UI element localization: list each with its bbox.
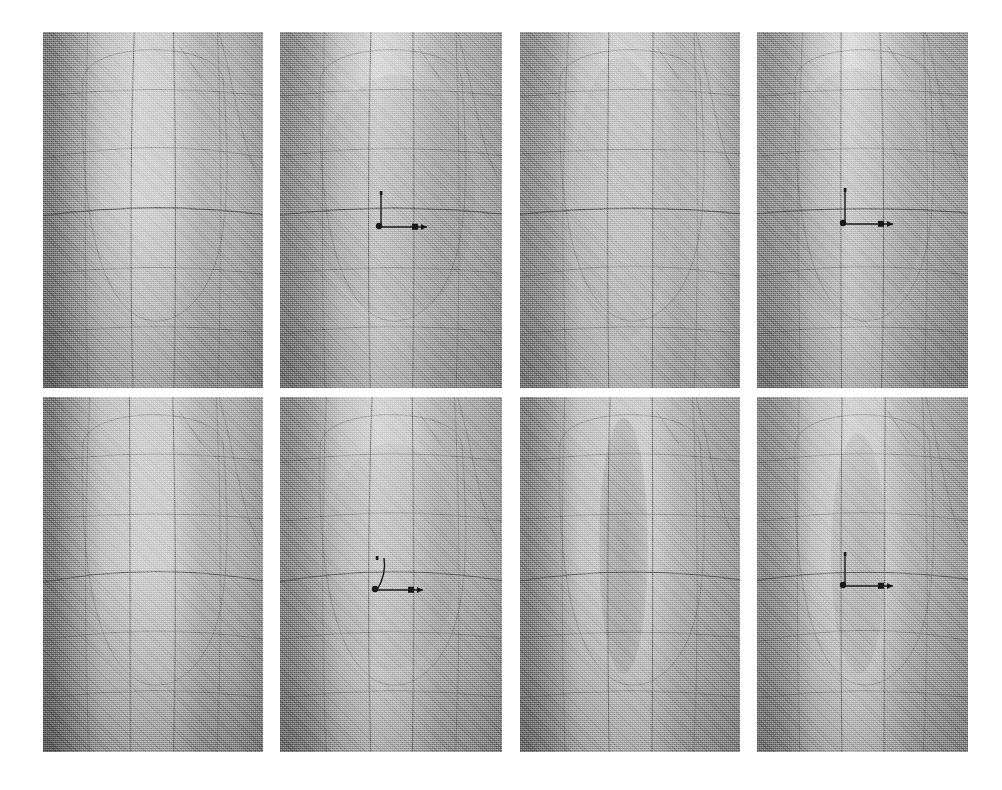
panel-h[interactable]	[757, 397, 968, 752]
panel-g[interactable]	[520, 397, 740, 752]
panel-c[interactable]	[520, 32, 740, 388]
panel-b[interactable]	[280, 32, 502, 388]
coordinate-triad-icon	[369, 550, 437, 596]
figure-canvas	[0, 0, 1002, 790]
panel-f[interactable]	[280, 397, 502, 752]
coordinate-triad-icon	[837, 182, 907, 230]
panel-a[interactable]	[43, 32, 263, 388]
panel-e[interactable]	[43, 397, 263, 752]
coordinate-triad-icon	[837, 546, 907, 592]
coordinate-triad-icon	[373, 185, 441, 233]
panel-d[interactable]	[757, 32, 968, 388]
